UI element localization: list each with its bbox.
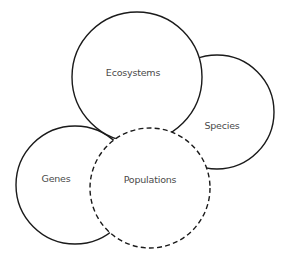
label-populations: Populations	[124, 174, 177, 185]
label-species: Species	[204, 120, 239, 131]
venn-diagram: SpeciesGenesEcosystemsPopulations	[0, 0, 283, 256]
circle-populations	[90, 128, 210, 248]
label-genes: Genes	[41, 173, 70, 184]
label-ecosystems: Ecosystems	[106, 67, 161, 78]
diagram-canvas: SpeciesGenesEcosystemsPopulations	[0, 0, 283, 256]
